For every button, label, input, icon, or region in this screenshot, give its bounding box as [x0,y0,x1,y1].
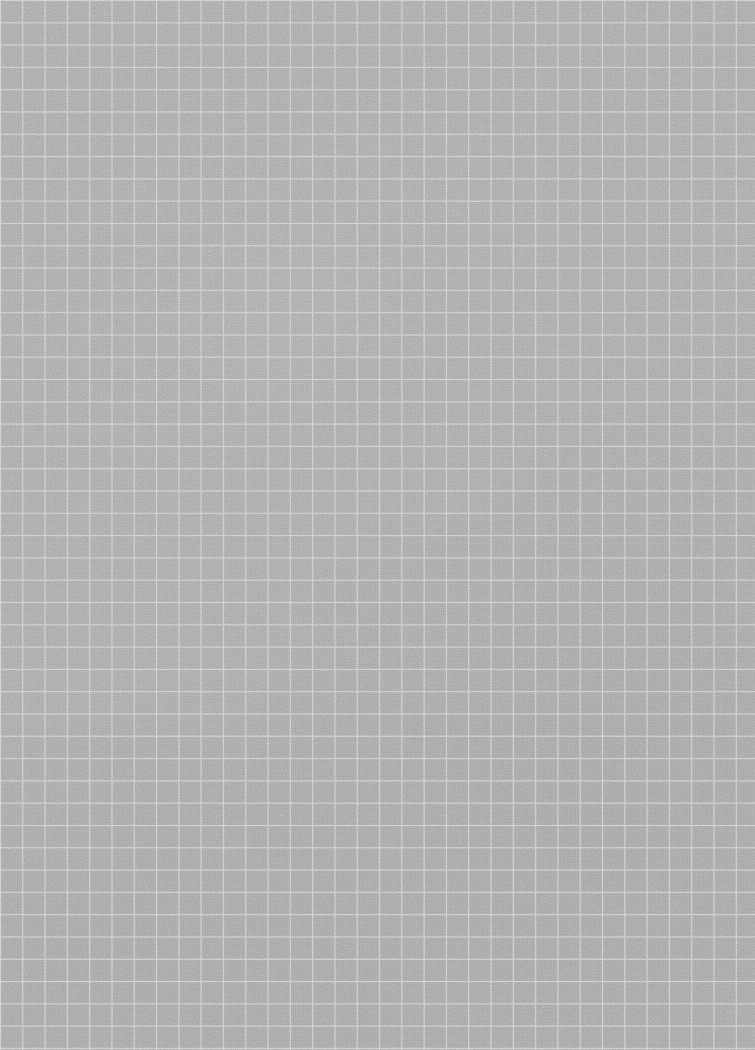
grid-lines-layer [0,0,755,1050]
grid-paper-canvas: Grid Paper Background [0,0,755,1050]
